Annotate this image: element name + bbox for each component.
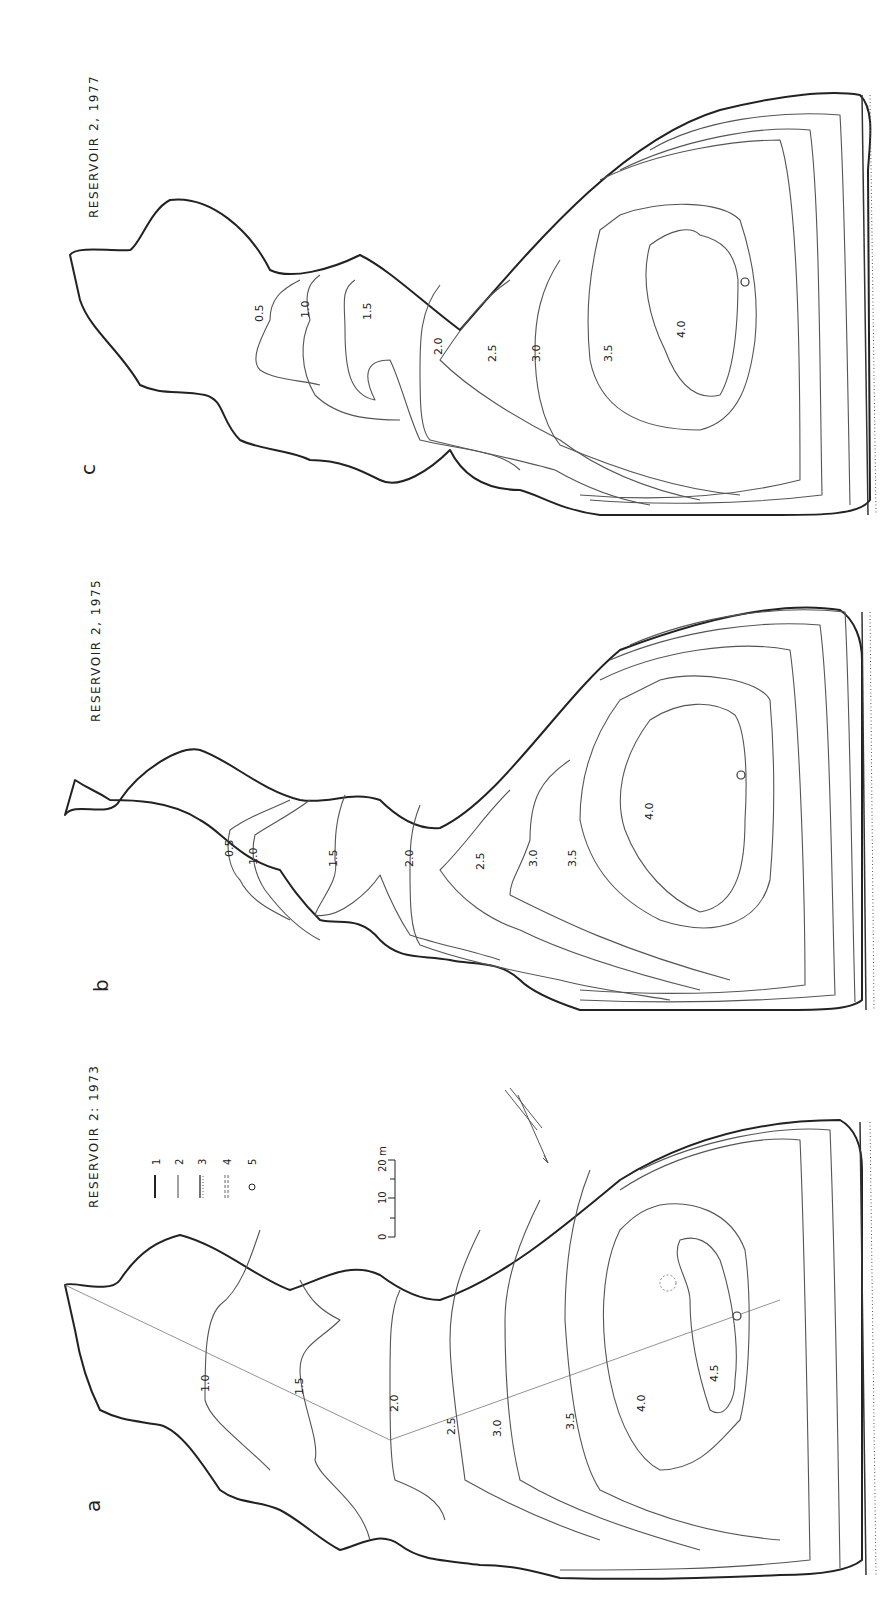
- panel-c-contour-outer-2: [590, 129, 822, 503]
- panel-c-dam: [862, 95, 868, 515]
- panel-b-contour-1.0: [253, 800, 320, 940]
- panel-b-label-2.5: 2.5: [474, 853, 487, 871]
- panel-a-label: a: [81, 1500, 105, 1512]
- panel-b-label-0.5: 0.5: [223, 840, 236, 858]
- panel-c-label-3.0: 3.0: [530, 345, 543, 363]
- panel-b-contour-outer-2: [580, 624, 835, 1002]
- panel-c-label-4.0: 4.0: [675, 321, 688, 339]
- panel-a-contour-1.5: [300, 1280, 370, 1540]
- panel-a-label-4.5: 4.5: [708, 1365, 721, 1383]
- panel-b-contour-4.0: [620, 704, 746, 912]
- panel-a-contour-1.0: [205, 1230, 270, 1470]
- panel-b-label-3.5: 3.5: [566, 850, 579, 868]
- panel-c-label-1.0: 1.0: [299, 301, 312, 319]
- panel-c-shoreline: [70, 93, 870, 515]
- panel-c-contour-3.5: [588, 204, 756, 430]
- panel-b-label-3.0: 3.0: [527, 850, 540, 868]
- panel-b-label-4.0: 4.0: [643, 803, 656, 821]
- scale-bar: 0 10 20 m: [377, 1146, 395, 1240]
- svg-text:3: 3: [197, 1159, 208, 1165]
- panel-a-label-3.0: 3.0: [491, 1420, 504, 1438]
- flow-direction-arrow-icon: [505, 1088, 548, 1163]
- panel-b-sampling-point-icon: [737, 771, 745, 779]
- svg-text:4: 4: [222, 1159, 233, 1165]
- panel-c-title: RESERVOIR 2, 1977: [87, 75, 101, 218]
- panel-a-contour-4.5: [677, 1238, 736, 1412]
- panel-c: 0.5 1.0 1.5 2.0 2.5 3.0 3.5 4.0 RESERVOI…: [70, 75, 876, 515]
- panel-a-contour-2.5: [450, 1230, 600, 1540]
- panel-b-label: b: [89, 979, 113, 992]
- legend-symbol-5-icon: [249, 1184, 255, 1190]
- panel-b-title: RESERVOIR 2, 1975: [89, 579, 103, 722]
- panel-a-contour-outer-1: [560, 1139, 810, 1570]
- panel-a-transect-line: [65, 1285, 780, 1440]
- panel-a-label-4.0: 4.0: [635, 1395, 648, 1413]
- svg-text:5: 5: [247, 1159, 258, 1165]
- panel-b-label-1.0: 1.0: [247, 848, 260, 866]
- panel-c-label-1.5: 1.5: [361, 303, 374, 321]
- reservoir-figure: 0.5 1.0 1.5 2.0 2.5 3.0 3.5 4.0 RESERVOI…: [0, 0, 883, 1621]
- panel-c-contour-4.0: [646, 230, 738, 396]
- panel-c-label-2.5: 2.5: [486, 345, 499, 363]
- panel-c-label: c: [76, 464, 100, 475]
- panel-a-contour-outer-2: [640, 1129, 840, 1568]
- svg-text:10: 10: [377, 1191, 388, 1204]
- panel-c-contour-1.0: [303, 275, 400, 420]
- panel-a-dam-hatch: [870, 1122, 876, 1575]
- panel-c-contour-3.0: [535, 260, 740, 495]
- panel-a-label-3.5: 3.5: [564, 1413, 577, 1431]
- svg-text:0: 0: [377, 1234, 388, 1240]
- panel-a-title: RESERVOIR 2: 1973: [87, 1065, 101, 1208]
- panel-c-dam-hatch: [870, 95, 876, 515]
- panel-a-dashed-feature: [660, 1275, 676, 1291]
- svg-text:2: 2: [174, 1159, 185, 1165]
- panel-c-contour-outer-1: [580, 140, 800, 498]
- panel-b: 0.5 1.0 1.5 2.0 2.5 3.0 3.5 4.0 RESERVOI…: [65, 579, 874, 1010]
- panel-c-label-0.5: 0.5: [253, 305, 266, 323]
- panel-a-label-2.5: 2.5: [445, 1418, 458, 1436]
- panel-c-contour-0.5: [256, 280, 320, 385]
- svg-text:20 m: 20 m: [377, 1146, 388, 1172]
- panel-a-label-1.0: 1.0: [199, 1375, 212, 1393]
- panel-c-contour-2.0: [420, 285, 650, 505]
- panel-b-label-2.0: 2.0: [403, 850, 416, 868]
- panel-a-sampling-point-icon: [733, 1312, 741, 1320]
- svg-text:1: 1: [151, 1159, 162, 1165]
- panel-b-contour-2.5: [440, 790, 700, 990]
- panel-a-contour-3.0: [505, 1200, 700, 1550]
- panel-b-contour-1.5: [315, 795, 500, 960]
- legend: 1 2 3 4 5: [151, 1159, 258, 1198]
- panel-a: 1.0 1.5 2.0 2.5 3.0 3.5 4.0 4.5 RESERVOI…: [65, 1065, 876, 1579]
- panel-b-dam-hatch: [870, 612, 874, 1010]
- panel-c-label-2.0: 2.0: [432, 338, 445, 356]
- panel-c-sampling-point-icon: [741, 278, 749, 286]
- panel-a-shoreline: [65, 1120, 862, 1579]
- panel-c-label-3.5: 3.5: [602, 345, 615, 363]
- panel-c-contour-2.5: [440, 280, 700, 500]
- panel-a-label-2.0: 2.0: [388, 1395, 401, 1413]
- panel-b-contour-outer-1: [580, 646, 805, 993]
- panel-b-contour-outer-3: [630, 610, 855, 1002]
- panel-a-label-1.5: 1.5: [293, 1378, 306, 1396]
- panel-c-contour-outer-3: [650, 114, 850, 505]
- panel-b-contour-3.5: [580, 676, 774, 928]
- panel-b-label-1.5: 1.5: [327, 850, 340, 868]
